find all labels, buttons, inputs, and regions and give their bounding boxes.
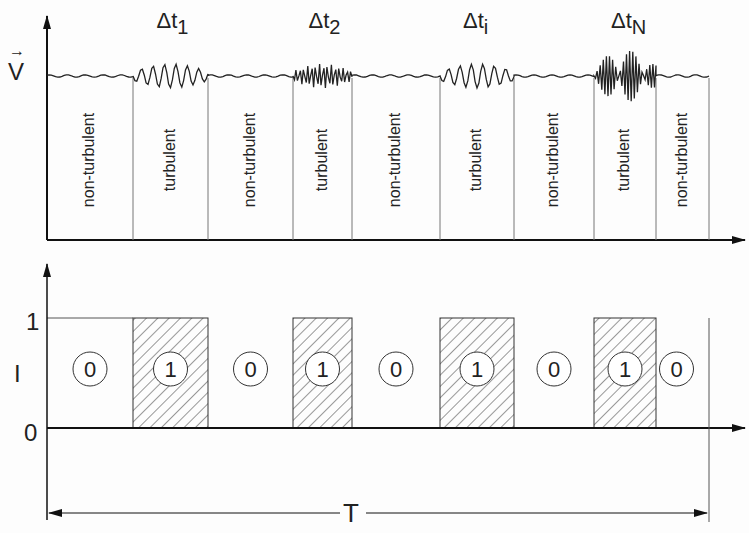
indicator-axis-label: I	[14, 360, 21, 387]
velocity-signal	[47, 51, 709, 101]
intermittency-diagram: V → non-turbulentturbulentΔt1non-turbule…	[0, 0, 749, 533]
interval-label: ΔtN	[611, 8, 646, 38]
indicator-value: 1	[316, 357, 328, 382]
tick-one-label: 1	[26, 308, 39, 335]
indicator-value: 0	[84, 357, 96, 382]
non-turbulent-label: non-turbulent	[80, 112, 97, 207]
segments-group: non-turbulentturbulentΔt1non-turbulenttu…	[80, 8, 709, 240]
interval-label: Δti	[463, 8, 488, 38]
interval-label: Δt1	[157, 8, 189, 38]
indicator-value: 0	[244, 357, 256, 382]
indicator-value: 1	[619, 357, 631, 382]
period-label: T	[343, 498, 359, 528]
non-turbulent-label: non-turbulent	[386, 112, 403, 207]
non-turbulent-label: non-turbulent	[241, 112, 258, 207]
indicator-value: 0	[548, 357, 560, 382]
bottom-chart: 1 0 I 010101010 T	[14, 264, 745, 528]
indicator-value: 0	[670, 357, 682, 382]
indicator-value: 0	[390, 357, 402, 382]
non-turbulent-label: non-turbulent	[544, 112, 561, 207]
indicator-value: 1	[164, 357, 176, 382]
non-turbulent-label: non-turbulent	[673, 112, 690, 207]
turbulent-label: turbulent	[615, 128, 632, 191]
indicator-value: 1	[471, 357, 483, 382]
interval-label: Δt2	[309, 8, 341, 38]
turbulent-label: turbulent	[161, 128, 178, 191]
turbulent-label: turbulent	[467, 128, 484, 191]
velocity-axis-label: V	[8, 58, 24, 85]
tick-zero-label: 0	[24, 419, 37, 446]
turbulent-label: turbulent	[313, 128, 330, 191]
vector-arrow-icon: →	[9, 42, 25, 59]
diagram-svg: V → non-turbulentturbulentΔt1non-turbule…	[0, 0, 749, 533]
top-chart: V → non-turbulentturbulentΔt1non-turbule…	[8, 8, 745, 240]
